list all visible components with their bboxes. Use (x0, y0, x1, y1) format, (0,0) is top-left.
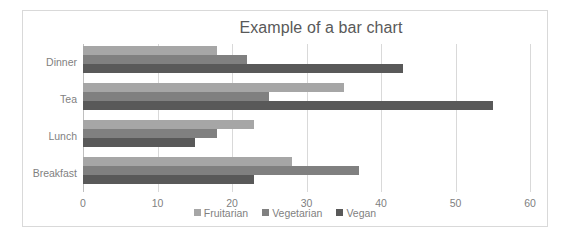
bar (83, 101, 493, 110)
legend-swatch-icon (194, 209, 201, 216)
category-label: Tea (60, 94, 77, 105)
bar-group: Lunch (83, 118, 530, 155)
chart-legend: FruitarianVegetarianVegan (23, 208, 547, 219)
bar (83, 129, 217, 138)
bar (83, 92, 269, 101)
bar (83, 157, 292, 166)
chart-title: Example of a bar chart (23, 19, 547, 37)
legend-item[interactable]: Vegan (336, 208, 376, 219)
bar (83, 175, 254, 184)
legend-swatch-icon (262, 209, 269, 216)
legend-label: Fruitarian (204, 208, 248, 219)
gridline (530, 44, 531, 192)
plot-area: DinnerTeaLunchBreakfast (83, 44, 530, 192)
bar (83, 166, 359, 175)
bar (83, 55, 247, 64)
category-label: Lunch (48, 131, 77, 142)
bar (83, 46, 217, 55)
legend-item[interactable]: Vegetarian (262, 208, 322, 219)
bar-group: Dinner (83, 44, 530, 81)
bar (83, 64, 403, 73)
legend-swatch-icon (336, 209, 343, 216)
category-label: Dinner (46, 57, 77, 68)
bar-group: Breakfast (83, 155, 530, 192)
chart-container: Example of a bar chart DinnerTeaLunchBre… (22, 10, 548, 227)
category-label: Breakfast (33, 168, 77, 179)
legend-label: Vegan (346, 208, 376, 219)
bar-group: Tea (83, 81, 530, 118)
bar (83, 138, 195, 147)
legend-item[interactable]: Fruitarian (194, 208, 248, 219)
bar (83, 120, 254, 129)
legend-label: Vegetarian (272, 208, 322, 219)
bar (83, 83, 344, 92)
